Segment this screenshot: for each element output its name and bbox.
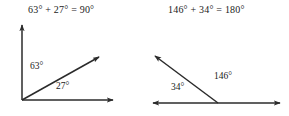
slanted-ray <box>155 56 218 103</box>
angle-label-27: 27° <box>56 81 69 91</box>
angle-diagram-figure: 63° + 27° = 90° 146° + 34° = 180° 63° 27… <box>0 0 289 116</box>
diagram-canvas <box>0 0 289 116</box>
angle-label-146: 146° <box>214 71 232 81</box>
angle-label-34: 34° <box>171 82 184 92</box>
angle-label-63: 63° <box>30 61 43 71</box>
